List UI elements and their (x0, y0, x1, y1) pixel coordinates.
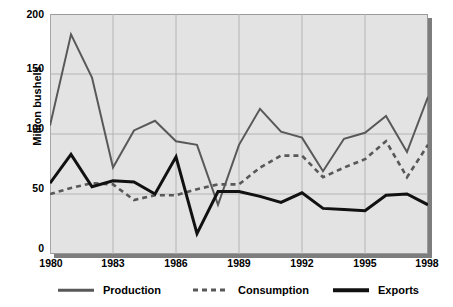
x-tick-label: 1980 (26, 258, 76, 269)
line-dashed-gray-icon (193, 284, 229, 296)
y-tick-label: 100 (8, 123, 44, 133)
x-tick-label: 1986 (151, 258, 201, 269)
plot-area (50, 14, 428, 254)
y-tick-label: 50 (8, 183, 44, 193)
x-tick-label: 1998 (402, 258, 452, 269)
x-tick-label: 1989 (214, 258, 264, 269)
legend-item-consumption[interactable]: Consumption (193, 281, 309, 299)
chart-canvas (50, 14, 428, 254)
gridlines (50, 14, 428, 254)
x-tick-label: 1992 (277, 258, 327, 269)
legend-item-exports[interactable]: Exports (333, 281, 419, 299)
line-solid-black-icon (333, 284, 369, 296)
legend-item-production[interactable]: Production (58, 281, 161, 299)
legend-label: Consumption (238, 284, 309, 296)
x-tick-label: 1995 (340, 258, 390, 269)
line-solid-gray-icon (58, 284, 94, 296)
y-tick-label: 150 (8, 63, 44, 73)
x-tick-label: 1983 (88, 258, 138, 269)
frame-shadow-bottom (54, 254, 432, 258)
line-chart-figure: Million bushels 200 150 100 50 0 1980 19… (0, 0, 453, 307)
y-tick-label: 0 (8, 243, 44, 253)
legend-label: Exports (378, 284, 419, 296)
y-tick-label: 200 (8, 9, 44, 19)
chart-legend: Production Consumption Exports (0, 281, 453, 303)
legend-label: Production (103, 284, 161, 296)
frame-shadow-right (428, 18, 432, 258)
